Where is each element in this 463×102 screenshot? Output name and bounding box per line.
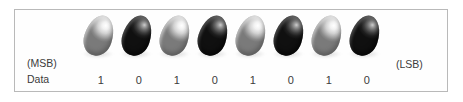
data-row-label: Data (27, 73, 49, 86)
bit-marker (272, 14, 310, 60)
bit-value: 0 (196, 74, 234, 87)
bit-cell: 1 (234, 10, 272, 93)
bit-value: 0 (348, 74, 386, 87)
bit-value: 1 (158, 74, 196, 87)
bit-marker (158, 14, 196, 60)
bit-cell: 1 (158, 10, 196, 93)
bit-cell: 1 (310, 10, 348, 93)
bit-cell: 0 (348, 10, 386, 93)
bit-marker (310, 14, 348, 60)
bit-marker (120, 14, 158, 60)
bit-cell: 0 (196, 10, 234, 93)
bit-marker (234, 14, 272, 60)
bit-cell: 0 (120, 10, 158, 93)
bit-cell: 1 (82, 10, 120, 93)
bit-marker (348, 14, 386, 60)
bit-cell: 0 (272, 10, 310, 93)
bit-value: 1 (82, 74, 120, 87)
msb-label: (MSB) (27, 57, 57, 70)
bit-value: 1 (310, 74, 348, 87)
bit-value: 1 (234, 74, 272, 87)
diagram-frame: (MSB) Data (LSB) 1 0 1 (14, 9, 448, 92)
binary-data-diagram: (MSB) Data (LSB) 1 0 1 (0, 0, 463, 102)
bit-value: 0 (120, 74, 158, 87)
lsb-label: (LSB) (396, 58, 423, 71)
bit-marker (196, 14, 234, 60)
bit-marker (82, 14, 120, 60)
bit-value: 0 (272, 74, 310, 87)
